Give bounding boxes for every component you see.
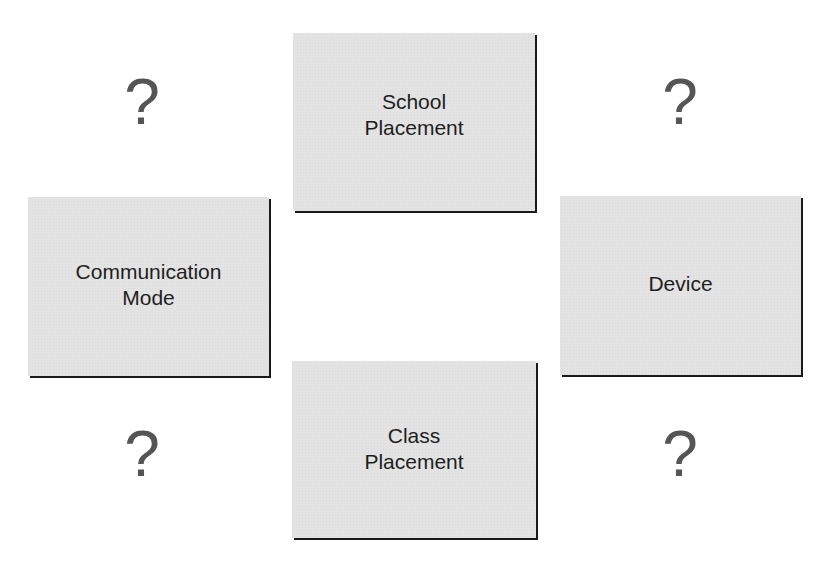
box-label: Device xyxy=(648,271,712,297)
question-mark-top-right: ? xyxy=(650,70,710,134)
question-mark-bottom-right: ? xyxy=(650,422,710,486)
question-mark-top-left: ? xyxy=(112,70,172,134)
box-school-placement: School Placement xyxy=(293,33,535,211)
box-label: Class Placement xyxy=(364,423,463,475)
box-device: Device xyxy=(560,196,801,375)
box-class-placement: Class Placement xyxy=(292,361,536,538)
box-label: Communication Mode xyxy=(76,259,222,311)
question-mark-bottom-left: ? xyxy=(112,422,172,486)
box-label: School Placement xyxy=(364,89,463,141)
box-communication-mode: Communication Mode xyxy=(28,197,269,376)
diagram-canvas: ? School Placement ? Communication Mode … xyxy=(0,0,833,566)
